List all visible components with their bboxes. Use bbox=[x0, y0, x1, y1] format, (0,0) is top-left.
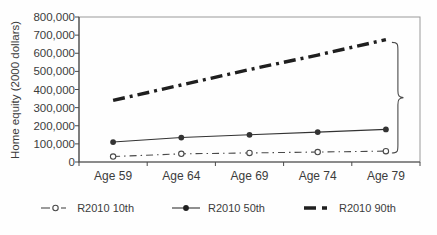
series-marker-r2010-10th bbox=[247, 150, 252, 155]
y-tick-label: 500,000 bbox=[33, 65, 75, 77]
series-marker-r2010-10th bbox=[383, 148, 388, 153]
x-tick-label: Age 69 bbox=[230, 169, 268, 183]
home-equity-chart: Home equity (2000 dollars) 800,000 700,0… bbox=[0, 0, 437, 235]
legend-label: R2010 90th bbox=[339, 202, 396, 214]
y-tick-label: 0 bbox=[69, 156, 75, 168]
legend-label: R2010 10th bbox=[77, 202, 134, 214]
plot-border bbox=[79, 17, 420, 162]
series-marker-r2010-50th bbox=[247, 132, 253, 138]
series-marker-r2010-50th bbox=[178, 135, 184, 141]
y-tick-label: 300,000 bbox=[33, 102, 75, 114]
y-tick-label: 400,000 bbox=[33, 84, 75, 96]
series-marker-r2010-50th bbox=[383, 126, 389, 132]
range-brace-annotation bbox=[392, 42, 404, 153]
legend-item-r2010-50th: R2010 50th bbox=[172, 202, 265, 214]
x-tick-label: Age 64 bbox=[162, 169, 200, 183]
plot-canvas: Home equity (2000 dollars) 800,000 700,0… bbox=[0, 0, 437, 192]
x-tick-label: Age 79 bbox=[367, 169, 405, 183]
y-tick-label: 600,000 bbox=[33, 47, 75, 59]
legend-marker-dashdot-open-circle-icon bbox=[41, 202, 71, 214]
y-tick-label: 100,000 bbox=[33, 138, 75, 150]
series-marker-r2010-10th bbox=[315, 149, 320, 154]
axis-lines bbox=[79, 17, 420, 162]
x-tick-labels: Age 59 Age 64 Age 69 Age 74 Age 79 bbox=[94, 169, 405, 183]
legend-item-r2010-10th: R2010 10th bbox=[41, 202, 134, 214]
x-tick-label: Age 59 bbox=[94, 169, 132, 183]
plot-series-layer bbox=[75, 17, 420, 166]
y-axis-title: Home equity (2000 dollars) bbox=[9, 21, 21, 159]
legend-item-r2010-90th: R2010 90th bbox=[303, 202, 396, 214]
series-marker-r2010-10th bbox=[179, 151, 184, 156]
y-tick-label: 200,000 bbox=[33, 120, 75, 132]
series-marker-r2010-50th bbox=[110, 139, 116, 145]
legend-marker-solid-filled-circle-icon bbox=[172, 202, 202, 214]
series-line-r2010-90th bbox=[113, 40, 386, 101]
y-tick-labels: 800,000 700,000 600,000 500,000 400,000 … bbox=[33, 11, 75, 168]
series-marker-r2010-50th bbox=[315, 129, 321, 135]
legend-label: R2010 50th bbox=[208, 202, 265, 214]
legend-marker-thick-dashdot-icon bbox=[303, 202, 333, 214]
chart-legend: R2010 10th R2010 50th R2010 90th bbox=[0, 202, 437, 214]
series-marker-r2010-10th bbox=[110, 154, 115, 159]
y-tick-label: 700,000 bbox=[33, 29, 75, 41]
y-tick-label: 800,000 bbox=[33, 11, 75, 23]
x-tick-label: Age 74 bbox=[299, 169, 337, 183]
